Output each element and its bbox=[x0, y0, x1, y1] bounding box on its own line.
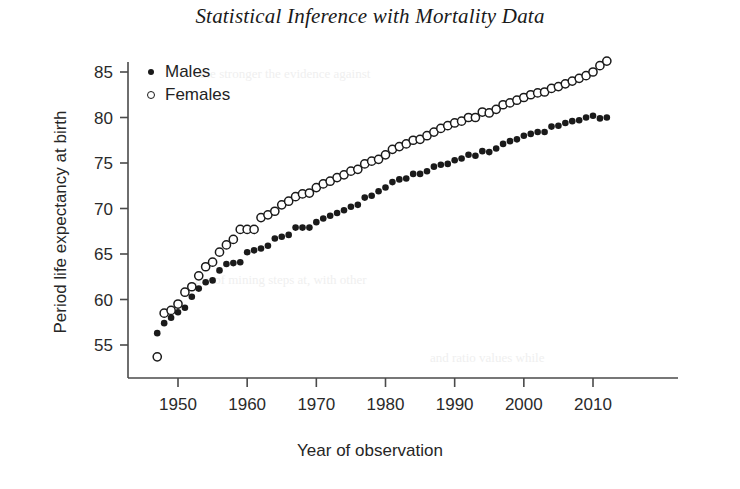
data-point bbox=[285, 232, 292, 239]
data-point bbox=[514, 136, 521, 143]
data-point bbox=[327, 212, 334, 219]
data-point bbox=[541, 129, 548, 136]
data-point bbox=[389, 179, 396, 186]
data-point bbox=[555, 122, 562, 129]
y-tick-label: 65 bbox=[94, 245, 113, 264]
data-point bbox=[313, 219, 320, 226]
data-point bbox=[348, 203, 355, 210]
x-tick-label: 1990 bbox=[436, 395, 474, 414]
legend: Males Females bbox=[142, 60, 272, 106]
y-tick-label: 80 bbox=[94, 109, 113, 128]
data-point bbox=[534, 129, 541, 136]
data-point bbox=[521, 132, 528, 139]
data-point bbox=[341, 207, 348, 214]
data-point bbox=[216, 267, 223, 274]
data-point bbox=[320, 215, 327, 222]
data-point bbox=[209, 277, 216, 284]
x-tick-label: 1980 bbox=[367, 395, 405, 414]
data-point bbox=[424, 168, 431, 175]
data-point bbox=[306, 224, 313, 231]
data-point bbox=[271, 207, 279, 215]
x-tick-label: 1950 bbox=[159, 395, 197, 414]
data-point bbox=[589, 68, 597, 76]
data-point bbox=[472, 152, 479, 159]
legend-label-males: Males bbox=[160, 62, 210, 82]
data-point bbox=[195, 272, 203, 280]
data-point bbox=[154, 330, 161, 337]
data-point bbox=[458, 155, 465, 162]
axis-layer bbox=[128, 62, 678, 378]
data-point bbox=[479, 148, 486, 155]
data-point bbox=[244, 249, 251, 256]
figure-container: Statistical Inference with Mortality Dat… bbox=[0, 0, 740, 489]
data-point bbox=[292, 224, 299, 231]
data-point bbox=[251, 247, 258, 254]
data-point bbox=[382, 184, 389, 191]
data-point bbox=[438, 162, 445, 169]
data-point bbox=[604, 114, 611, 121]
x-tick-layer: 1950196019701980199020002010 bbox=[159, 378, 612, 414]
data-point bbox=[444, 161, 451, 168]
data-point bbox=[569, 118, 576, 125]
data-point bbox=[229, 235, 237, 243]
x-tick-label: 2000 bbox=[505, 395, 543, 414]
legend-item-females: Females bbox=[142, 83, 272, 106]
data-point bbox=[355, 202, 362, 209]
data-point bbox=[278, 233, 285, 240]
data-point bbox=[486, 149, 493, 156]
data-point bbox=[493, 145, 500, 152]
data-point bbox=[188, 283, 196, 291]
data-point bbox=[375, 188, 382, 195]
legend-item-males: Males bbox=[142, 60, 272, 83]
data-point bbox=[500, 141, 507, 148]
data-point bbox=[237, 259, 244, 266]
data-point bbox=[417, 171, 424, 178]
data-point bbox=[334, 210, 341, 217]
x-tick-label: 1960 bbox=[228, 395, 266, 414]
data-point bbox=[258, 245, 265, 252]
data-point bbox=[272, 235, 279, 242]
data-point bbox=[223, 261, 230, 268]
y-axis-label: Period life expectancy at birth bbox=[51, 57, 71, 387]
data-point bbox=[153, 353, 161, 361]
data-point bbox=[576, 117, 583, 124]
y-tick-label: 75 bbox=[94, 154, 113, 173]
open-circle-icon bbox=[142, 91, 160, 99]
data-point bbox=[230, 260, 237, 267]
y-tick-label: 60 bbox=[94, 291, 113, 310]
x-tick-label: 2010 bbox=[574, 395, 612, 414]
data-point bbox=[299, 224, 306, 231]
y-tick-label: 70 bbox=[94, 200, 113, 219]
data-point bbox=[202, 279, 209, 286]
data-point bbox=[250, 225, 258, 233]
data-point bbox=[215, 248, 223, 256]
data-point bbox=[451, 157, 458, 164]
x-tick-label: 1970 bbox=[297, 395, 335, 414]
data-point bbox=[168, 314, 175, 321]
plot-area: 55606570758085 1950196019701980199020002… bbox=[0, 0, 740, 489]
data-point bbox=[167, 306, 175, 314]
data-point bbox=[527, 131, 534, 138]
data-point bbox=[368, 192, 375, 199]
y-tick-layer: 55606570758085 bbox=[94, 63, 128, 355]
data-point bbox=[361, 194, 368, 201]
x-axis-label: Year of observation bbox=[0, 441, 740, 461]
data-point bbox=[465, 152, 472, 159]
data-point bbox=[603, 57, 611, 65]
data-point bbox=[189, 293, 196, 300]
data-point bbox=[597, 115, 604, 122]
data-point bbox=[431, 163, 438, 170]
data-point bbox=[410, 171, 417, 178]
data-point bbox=[548, 123, 555, 130]
data-point bbox=[590, 112, 597, 119]
data-point bbox=[265, 243, 272, 250]
series-males bbox=[154, 112, 610, 336]
y-tick-label: 85 bbox=[94, 63, 113, 82]
data-point bbox=[396, 176, 403, 183]
data-point bbox=[208, 258, 216, 266]
filled-circle-icon bbox=[142, 69, 160, 75]
legend-label-females: Females bbox=[160, 85, 230, 105]
data-point bbox=[403, 175, 410, 182]
data-point bbox=[507, 138, 514, 145]
data-point bbox=[583, 114, 590, 121]
